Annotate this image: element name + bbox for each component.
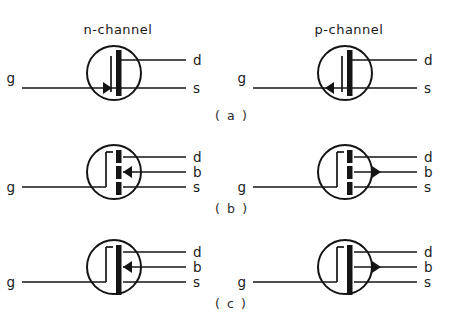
source-label: s: [193, 274, 200, 290]
channel-bar-continuous: [347, 50, 353, 96]
drain-label: d: [424, 149, 433, 165]
drain-label: d: [193, 244, 202, 260]
symbol-a-n-channel: g d s: [6, 46, 201, 100]
device-envelope-circle: [318, 46, 372, 100]
body-arrow-left-icon: [123, 166, 132, 178]
symbol-b-p-channel: g d b s: [237, 145, 432, 199]
drain-label: d: [193, 52, 202, 68]
column-title-n-channel: n-channel: [84, 22, 153, 37]
channel-segment-body: [347, 166, 353, 179]
gate-label: g: [6, 274, 15, 290]
body-arrow-right-icon: [372, 261, 381, 273]
channel-segment-drain: [116, 150, 122, 163]
symbol-a-p-channel: g d s: [237, 46, 432, 100]
gate-label: g: [237, 70, 246, 86]
body-arrow-left-icon: [123, 261, 132, 273]
mosfet-symbol-canvas: n-channel p-channel g d s: [0, 0, 462, 329]
channel-bar-continuous: [116, 245, 122, 295]
body-label: b: [193, 259, 202, 275]
body-label: b: [424, 164, 433, 180]
body-arrow-right-icon: [372, 166, 381, 178]
row-caption-a: ( a ): [215, 108, 248, 123]
channel-segment-body: [116, 166, 122, 179]
symbol-b-n-channel: g d b s: [6, 145, 201, 199]
mosfet-symbol-figure: n-channel p-channel g d s: [0, 0, 462, 329]
source-label: s: [193, 80, 200, 96]
symbol-c-p-channel: g d b s: [237, 240, 432, 295]
column-title-p-channel: p-channel: [315, 22, 384, 37]
drain-label: d: [424, 244, 433, 260]
source-label: s: [193, 179, 200, 195]
source-label: s: [424, 179, 431, 195]
channel-segment-source: [347, 182, 353, 195]
source-label: s: [424, 80, 431, 96]
symbol-c-n-channel: g d b s: [6, 240, 201, 295]
channel-bar-continuous: [116, 50, 122, 96]
channel-segment-drain: [347, 150, 353, 163]
body-label: b: [193, 164, 202, 180]
row-caption-b: ( b ): [215, 201, 249, 216]
channel-segment-source: [116, 182, 122, 195]
channel-bar-continuous: [347, 245, 353, 295]
source-label: s: [424, 274, 431, 290]
gate-label: g: [6, 70, 15, 86]
drain-label: d: [424, 52, 433, 68]
gate-label: g: [237, 274, 246, 290]
drain-label: d: [193, 149, 202, 165]
gate-label: g: [237, 179, 246, 195]
gate-label: g: [6, 179, 15, 195]
row-caption-c: ( c ): [215, 296, 248, 311]
device-envelope-circle: [87, 46, 141, 100]
body-label: b: [424, 259, 433, 275]
